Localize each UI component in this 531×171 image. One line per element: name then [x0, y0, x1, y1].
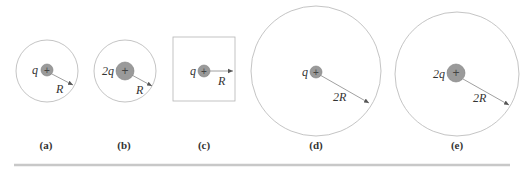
charge-label: q [302, 65, 308, 79]
panel-e: + 2q 2R (e) [395, 12, 519, 152]
charge-label: q [190, 64, 196, 78]
panel-a: + q R (a) [16, 40, 78, 152]
panel-d: + q 2R (d) [251, 6, 381, 152]
charge-label: 2q [433, 67, 445, 81]
radius-label: 2R [333, 90, 347, 104]
panel-c: + q R (c) [173, 37, 235, 152]
radius-label: R [55, 82, 64, 96]
charge-sign: + [201, 66, 207, 77]
charge-sign: + [44, 65, 50, 76]
charge-sign: + [452, 66, 459, 80]
panel-label: (c) [198, 139, 211, 152]
charge-label: 2q [102, 64, 114, 78]
panel-label: (b) [117, 139, 131, 152]
panel-b: + 2q R (b) [94, 40, 156, 152]
radius-label: R [217, 74, 226, 88]
radius-label: 2R [473, 91, 487, 105]
panel-label: (d) [309, 139, 323, 152]
charge-sign: + [121, 64, 128, 78]
charge-sign: + [313, 67, 319, 78]
panel-label: (e) [451, 139, 464, 152]
gauss-law-figure: + q R (a) + 2q R (b) + q R (c) + q 2R (d… [0, 0, 531, 171]
radius-label: R [135, 83, 144, 97]
charge-label: q [32, 63, 38, 77]
panel-label: (a) [40, 139, 53, 152]
